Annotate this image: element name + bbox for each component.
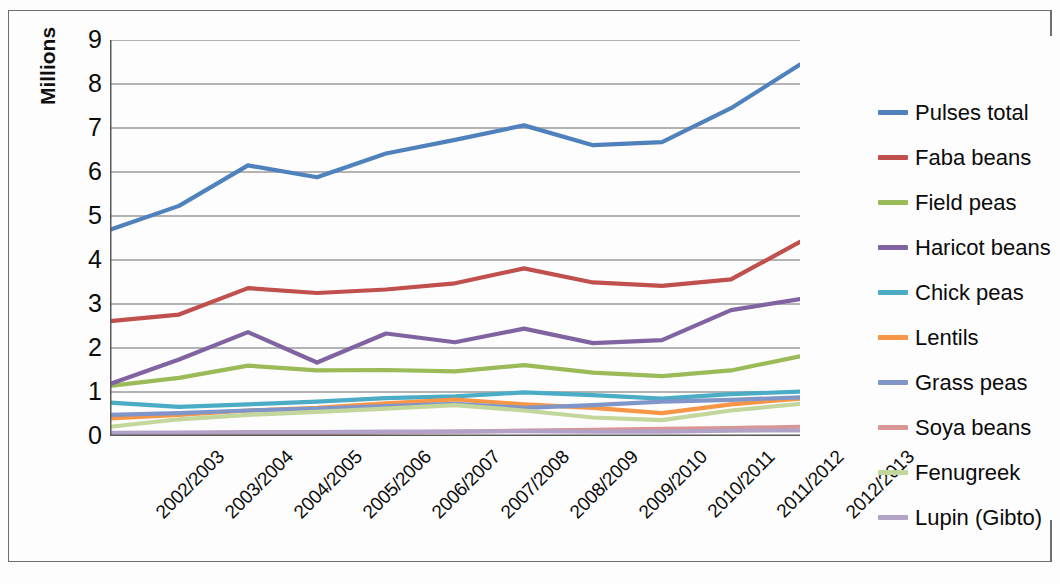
gridlines [110, 40, 800, 436]
series-line [110, 65, 800, 230]
x-axis-tick-label: 2006/2007 [428, 446, 505, 523]
legend-color-swatch [878, 335, 908, 340]
x-axis-tick-label: 2003/2004 [221, 446, 298, 523]
legend-item[interactable]: Faba beans [878, 135, 1058, 180]
legend-color-swatch [878, 425, 908, 430]
y-axis-title: Millions [14, 40, 54, 220]
legend-color-swatch [878, 245, 908, 250]
series-line [110, 430, 800, 433]
legend-item[interactable]: Pulses total [878, 90, 1058, 135]
legend-color-swatch [878, 200, 908, 205]
legend-color-swatch [878, 515, 908, 520]
legend-item[interactable]: Lentils [878, 315, 1058, 360]
y-axis-tick-label: 1 [68, 379, 102, 404]
y-axis-tick-label: 9 [68, 27, 102, 52]
y-axis-tick-label: 3 [68, 291, 102, 316]
legend-item-label: Soya beans [915, 417, 1031, 439]
x-axis-tick-labels: 2002/20032003/20042004/20052005/20062006… [110, 436, 810, 576]
legend-item-label: Field peas [915, 192, 1017, 214]
legend-item[interactable]: Chick peas [878, 270, 1058, 315]
x-axis-tick-label: 2004/2005 [290, 446, 367, 523]
series-line [110, 242, 800, 321]
chart-plot-svg [110, 40, 800, 436]
y-axis-tick-labels: 0123456789 [62, 0, 102, 584]
legend-item-label: Fenugreek [915, 462, 1020, 484]
legend-item-label: Chick peas [915, 282, 1024, 304]
legend-item[interactable]: Haricot beans [878, 225, 1058, 270]
x-axis-tick-label: 2005/2006 [359, 446, 436, 523]
legend-item[interactable]: Lupin (Gibto) [878, 495, 1058, 540]
figure-border-right-top [1050, 10, 1052, 36]
chart-legend: Pulses totalFaba beansField peasHaricot … [878, 90, 1058, 540]
y-axis-title-label: Millions [36, 0, 60, 136]
legend-item[interactable]: Fenugreek [878, 450, 1058, 495]
x-axis-tick-label: 2011/2012 [772, 446, 848, 522]
legend-item[interactable]: Grass peas [878, 360, 1058, 405]
y-axis-tick-label: 5 [68, 203, 102, 228]
legend-color-swatch [878, 110, 908, 115]
legend-color-swatch [878, 290, 908, 295]
y-axis-tick-label: 7 [68, 115, 102, 140]
y-axis-tick-label: 2 [68, 335, 102, 360]
y-axis-tick-label: 4 [68, 247, 102, 272]
x-axis-tick-label: 2007/2008 [497, 446, 574, 523]
x-axis-tick-label: 2009/2010 [635, 446, 712, 523]
legend-color-swatch [878, 470, 908, 475]
x-axis-tick-label: 2002/2003 [152, 446, 229, 523]
y-axis-tick-label: 0 [68, 423, 102, 448]
series-line [110, 356, 800, 385]
legend-color-swatch [878, 155, 908, 160]
legend-item-label: Faba beans [915, 147, 1031, 169]
series-lines [110, 65, 800, 435]
x-axis-tick-label: 2008/2009 [566, 446, 643, 523]
legend-item-label: Haricot beans [915, 237, 1051, 259]
plot-area [110, 40, 800, 436]
y-axis-tick-label: 6 [68, 159, 102, 184]
legend-item-label: Grass peas [915, 372, 1028, 394]
legend-item-label: Pulses total [915, 102, 1029, 124]
legend-item[interactable]: Soya beans [878, 405, 1058, 450]
chart-figure: Millions 0123456789 2002/20032003/200420… [0, 0, 1060, 584]
y-axis-tick-label: 8 [68, 71, 102, 96]
legend-item[interactable]: Field peas [878, 180, 1058, 225]
legend-item-label: Lupin (Gibto) [915, 507, 1042, 529]
legend-item-label: Lentils [915, 327, 979, 349]
legend-color-swatch [878, 380, 908, 385]
x-axis-tick-label: 2010/2011 [703, 446, 779, 522]
